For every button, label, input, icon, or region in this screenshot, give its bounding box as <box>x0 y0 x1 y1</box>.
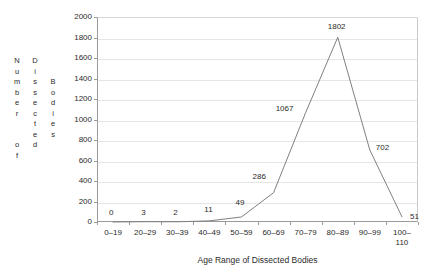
y-axis-title-char: e <box>15 98 19 109</box>
series-line <box>97 17 418 222</box>
x-axis-tick-label: 70–79 <box>290 228 322 238</box>
y-axis-tick-label: 800 <box>52 136 92 144</box>
y-axis-title-char: e <box>33 98 37 109</box>
y-axis-tick-label: 2000 <box>52 13 92 21</box>
y-axis-title-char: b <box>15 88 19 99</box>
x-axis-tick-mark <box>354 222 355 225</box>
x-axis-tick-label: 0–19 <box>97 228 129 238</box>
y-axis-title-char: r <box>16 109 19 120</box>
data-point-label: 0 <box>109 209 113 217</box>
y-axis-title-char: N <box>14 56 19 67</box>
y-axis-tick-label: 1400 <box>52 75 92 83</box>
x-axis-tick-label: 90–99 <box>354 228 386 238</box>
chart-container: Number of Dissected Bodies 2000180016001… <box>0 0 433 276</box>
x-axis-tick-mark <box>225 222 226 225</box>
y-axis-title-char: s <box>33 77 37 88</box>
x-axis-tick-label: 100– 110 <box>386 228 418 248</box>
data-point-label: 3 <box>141 209 145 217</box>
y-axis-tick-label: 200 <box>52 198 92 206</box>
y-axis-title-char: t <box>34 119 36 130</box>
y-axis-title-char: D <box>32 56 37 67</box>
y-axis-tick-label: 1200 <box>52 95 92 103</box>
x-axis-tick-label: 50–59 <box>225 228 257 238</box>
y-axis-title-char: m <box>14 77 20 88</box>
x-axis-tick-label: 30–39 <box>161 228 193 238</box>
x-axis-tick-mark <box>322 222 323 225</box>
x-axis-tick-mark <box>193 222 194 225</box>
x-axis-tick-mark <box>418 222 419 225</box>
data-point-label: 51 <box>410 213 419 221</box>
x-axis-tick-mark <box>129 222 130 225</box>
y-axis-title-char: e <box>33 130 37 141</box>
y-axis-title-char: f <box>16 151 18 162</box>
y-axis-tick-label: 1800 <box>52 34 92 42</box>
y-axis-title-char: u <box>15 67 19 78</box>
x-axis-tick-label: 60–69 <box>258 228 290 238</box>
x-axis-tick-mark <box>161 222 162 225</box>
data-point-label: 286 <box>253 173 266 181</box>
y-axis-title-column-dissected: Dissected <box>26 56 44 151</box>
x-axis-tick-mark <box>97 222 98 225</box>
data-point-label: 2 <box>173 209 177 217</box>
y-axis-title-char: i <box>34 67 36 78</box>
y-axis-title-char: o <box>15 140 19 151</box>
x-axis-title: Age Range of Dissected Bodies <box>97 255 418 265</box>
y-axis-title-char: c <box>33 109 37 120</box>
data-point-label: 1802 <box>328 23 346 31</box>
y-axis-title-column-bodies: Bodies <box>44 77 62 140</box>
y-axis-tick-label: 600 <box>52 157 92 165</box>
x-axis-tick-label: 80–89 <box>322 228 354 238</box>
y-axis-tick-label: 400 <box>52 177 92 185</box>
y-axis-tick-label: 1600 <box>52 54 92 62</box>
y-axis-tick-label: 0 <box>52 218 92 226</box>
y-axis-title-char: d <box>33 140 37 151</box>
data-point-label: 11 <box>204 206 212 214</box>
x-axis-tick-label: 20–29 <box>129 228 161 238</box>
y-axis-title-char: s <box>33 88 37 99</box>
x-axis-tick-mark <box>290 222 291 225</box>
x-axis-tick-mark <box>386 222 387 225</box>
y-axis-tick-label: 1000 <box>52 116 92 124</box>
y-axis-title-column-number-of: Number of <box>8 56 26 161</box>
data-point-label: 1067 <box>276 105 294 113</box>
data-point-label: 49 <box>235 199 244 207</box>
data-point-label: 702 <box>376 144 389 152</box>
x-axis-tick-label: 40–49 <box>193 228 225 238</box>
x-axis-tick-mark <box>258 222 259 225</box>
